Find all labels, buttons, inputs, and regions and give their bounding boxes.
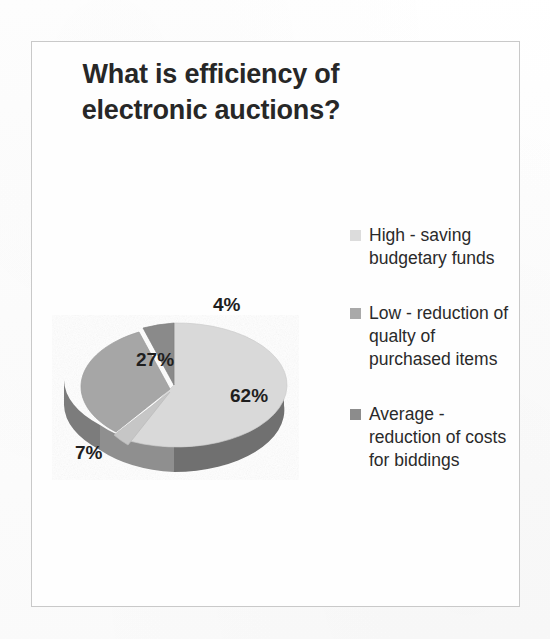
legend-swatch-average-icon xyxy=(350,409,361,420)
pie-label-27: 27% xyxy=(136,349,174,371)
legend-swatch-high-icon xyxy=(350,230,361,241)
chart-title-line-2: electronic auctions? xyxy=(46,92,376,128)
pie-label-62: 62% xyxy=(230,385,268,407)
legend-item-average: Average - reduction of costs for bidding… xyxy=(350,403,510,472)
pie-label-4: 4% xyxy=(213,294,240,316)
chart-frame: What is efficiency of electronic auction… xyxy=(31,41,520,607)
legend-label-high: High - saving budgetary funds xyxy=(369,224,510,270)
chart-title: What is efficiency of electronic auction… xyxy=(46,56,376,128)
pie-label-7: 7% xyxy=(75,442,102,464)
chart-title-line-1: What is efficiency of xyxy=(46,56,376,92)
legend-item-high: High - saving budgetary funds xyxy=(350,224,510,270)
legend-label-average: Average - reduction of costs for bidding… xyxy=(369,403,510,472)
legend-label-low: Low - reduction of qualty of purchased i… xyxy=(369,302,510,371)
chart-legend: High - saving budgetary funds Low - redu… xyxy=(350,224,510,504)
legend-swatch-low-icon xyxy=(350,308,361,319)
legend-item-low: Low - reduction of qualty of purchased i… xyxy=(350,302,510,371)
